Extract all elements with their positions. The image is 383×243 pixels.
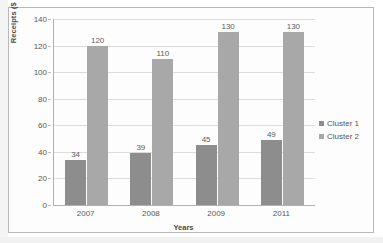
y-axis-tick-label: 60: [38, 121, 47, 130]
bar-value-label: 45: [202, 135, 211, 144]
y-axis-tick-label: 0: [43, 201, 47, 210]
y-axis-title: Receipts ($ billion): [9, 0, 18, 59]
scan-edge-bottom: [0, 237, 383, 243]
bar-value-label: 49: [267, 130, 276, 139]
legend-item[interactable]: Cluster 1: [319, 117, 374, 130]
legend-swatch-icon: [319, 121, 324, 126]
bar-chart: Receipts ($ billion) 140120100806040200 …: [8, 7, 374, 233]
bar-value-label: 130: [287, 22, 300, 31]
y-axis-tick-mark: [48, 46, 51, 47]
y-axis-tick-label: 40: [38, 147, 47, 156]
bar-value-label: 130: [221, 22, 234, 31]
legend-swatch-icon: [319, 134, 324, 139]
bar-group: 49130: [250, 19, 315, 205]
plot-area: 34120391104513049130: [53, 19, 315, 206]
y-axis-tick-labels: 140120100806040200: [22, 19, 50, 205]
bar-value-label: 110: [156, 49, 169, 58]
bar-group: 34120: [54, 19, 119, 205]
bar[interactable]: [218, 32, 239, 205]
scan-edge-left: [0, 0, 8, 243]
x-axis-tick-label: 2011: [273, 209, 290, 218]
y-axis-tick-mark: [48, 178, 51, 179]
chart-legend: Cluster 1Cluster 2: [319, 117, 374, 143]
legend-item-label: Cluster 1: [327, 119, 359, 128]
y-axis-tick-mark: [48, 125, 51, 126]
y-axis-tick-label: 80: [38, 94, 47, 103]
x-axis-tick-label: 2007: [77, 209, 95, 218]
legend-item[interactable]: Cluster 2: [319, 130, 374, 143]
bar-value-label: 120: [91, 36, 104, 45]
x-axis-tick-labels: 2007200820092011: [53, 209, 314, 223]
y-axis-tick-label: 120: [34, 41, 47, 50]
bar[interactable]: [65, 160, 86, 205]
bar[interactable]: [87, 46, 108, 205]
y-axis-tick-mark: [48, 152, 51, 153]
bars-layer: 34120391104513049130: [54, 19, 315, 205]
x-axis-tick-label: 2008: [142, 209, 160, 218]
y-axis-tick-mark: [48, 99, 51, 100]
y-axis-tick-mark: [48, 72, 51, 73]
y-axis-tick-mark: [48, 19, 51, 20]
bar[interactable]: [130, 153, 151, 205]
legend-item-label: Cluster 2: [327, 132, 359, 141]
y-axis-tick-mark: [48, 205, 51, 206]
bar[interactable]: [261, 140, 282, 205]
y-axis-tick-label: 140: [34, 15, 47, 24]
y-axis-tick-label: 20: [38, 174, 47, 183]
bar[interactable]: [283, 32, 304, 205]
bar[interactable]: [196, 145, 217, 205]
bar-group: 45130: [185, 19, 250, 205]
y-axis-tick-label: 100: [34, 68, 47, 77]
bar[interactable]: [152, 59, 173, 205]
bar-group: 39110: [119, 19, 184, 205]
bar-value-label: 39: [136, 143, 145, 152]
x-axis-title: Years: [53, 223, 314, 232]
x-axis-tick-label: 2009: [207, 209, 225, 218]
bar-value-label: 34: [71, 150, 80, 159]
